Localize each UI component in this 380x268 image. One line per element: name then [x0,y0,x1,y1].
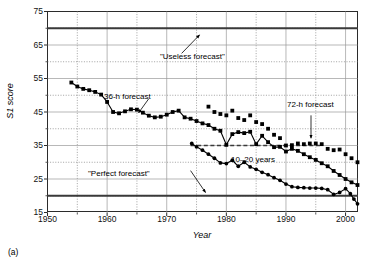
y-tick-label: 55 [19,74,43,83]
y-tick-label: 75 [19,7,43,16]
x-tick-label: 1950 [28,215,68,224]
y-tick-label: 35 [19,141,43,150]
figure-panel: S1 score 75655545352515 1950196019701980… [0,0,380,268]
annotation-useless-forecast: "Useless forecast" [160,52,225,61]
y-tick-label: 45 [19,108,43,117]
y-tick-label: 65 [19,41,43,50]
annotation-10-20-years: 10–20 years [231,155,275,164]
plot-area [47,11,358,212]
x-tick-label: 2000 [326,215,366,224]
x-axis-tick-labels: 195019601970198019902000 [0,215,380,227]
x-tick-label: 1970 [147,215,187,224]
x-tick-label: 1990 [266,215,306,224]
x-axis-title: Year [162,230,242,240]
x-tick-label: 1980 [206,215,246,224]
y-axis-title: S1 score [5,70,15,132]
y-axis-tick-labels: 75655545352515 [19,0,43,268]
figure-caption: (a) [8,247,18,257]
annotation-perfect-forecast: "Perfect forecast" [88,169,150,178]
x-tick-label: 1960 [87,215,127,224]
annotation-72h-forecast: 72-h forecast [287,100,334,109]
annotation-36h-forecast: 36-h forecast [104,92,151,101]
y-tick-label: 25 [19,175,43,184]
